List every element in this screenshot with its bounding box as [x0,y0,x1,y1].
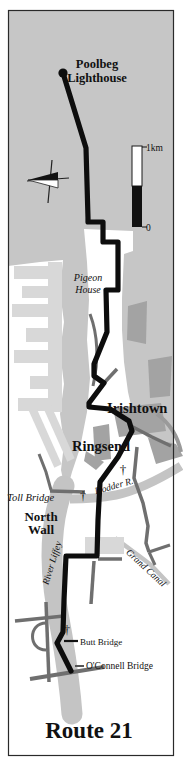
poolbeg-lighthouse-label: Lighthouse [67,71,127,85]
pier [14,350,56,363]
quay-block [70,512,83,537]
church-cross-icon: † [120,462,127,477]
scale-bar-lower [132,186,142,227]
ringsend-label: Ringsend [72,438,130,454]
oconnell-bridge-label: O'Connell Bridge [86,661,153,671]
pier [30,376,62,389]
poolbeg-lighthouse-label: Poolbeg [76,57,119,71]
pigeon-house-label: Pigeon [73,272,102,283]
route-map-page: 1km 0 † † † Poolbeg Lighthouse Pigeon Ho… [0,0,183,765]
butt-bridge-label: Butt Bridge [80,637,122,647]
north-wall-label: Wall [28,522,54,537]
pier [12,304,58,317]
built-up-block [148,356,172,398]
church-cross-icon: † [80,489,86,503]
pier [22,286,62,298]
quay-block [85,537,124,554]
church-cross-icon: † [64,623,70,637]
scale-bar-upper [132,146,142,186]
scale-top-label: 1km [146,143,164,153]
pier [26,328,62,342]
route-title: Route 21 [45,718,133,743]
built-up-block [127,301,147,344]
pier [14,266,56,279]
scale-bottom-label: 0 [146,223,151,233]
route-map: 1km 0 † † † Poolbeg Lighthouse Pigeon Ho… [0,0,183,765]
toll-bridge-label: Toll Bridge [7,492,55,503]
irishtown-label: Irishtown [107,400,167,416]
pigeon-house-label: House [74,284,101,295]
